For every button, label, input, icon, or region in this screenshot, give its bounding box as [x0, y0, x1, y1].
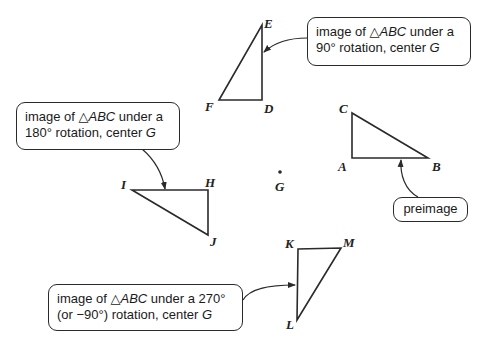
- triangle-abc-preimage: [352, 113, 428, 158]
- triangle-def-rotation-90: [219, 25, 262, 100]
- callout-line-2: 90° rotation, center G: [316, 40, 462, 56]
- text: 180° rotation, center: [25, 125, 146, 140]
- callout-preimage: preimage: [393, 197, 468, 222]
- vertex-label-a: A: [338, 160, 347, 173]
- triangle-name: ABC: [88, 109, 115, 124]
- center-point-g: [278, 170, 282, 174]
- vertex-label-m: M: [343, 236, 355, 249]
- triangle-klm-rotation-270: [297, 248, 341, 320]
- vertex-label-g: G: [275, 180, 284, 193]
- triangle-icon: △: [110, 291, 120, 306]
- text: (or −90°) rotation, center: [57, 307, 202, 322]
- vertex-label-b: B: [432, 160, 441, 173]
- callout-line-1: image of △ABC under a 270°: [57, 291, 234, 307]
- callout-rotation-90: image of △ABC under a 90° rotation, cent…: [307, 17, 471, 66]
- callout-rotation-180: image of △ABC under a 180° rotation, cen…: [16, 102, 180, 150]
- vertex-label-c: C: [339, 102, 348, 115]
- center-name: G: [202, 307, 212, 322]
- text: under a: [406, 24, 454, 39]
- triangle-hij-rotation-180: [132, 190, 208, 235]
- arrow-rot270: [243, 285, 295, 300]
- vertex-label-k: K: [285, 237, 294, 250]
- arrow-rot90: [264, 38, 307, 52]
- callout-rotation-270: image of △ABC under a 270° (or −90°) rot…: [48, 284, 243, 331]
- text: image of: [25, 109, 78, 124]
- preimage-label: preimage: [403, 201, 457, 216]
- callout-line-2: (or −90°) rotation, center G: [57, 307, 234, 323]
- center-name: G: [146, 125, 156, 140]
- text: under a 270°: [147, 291, 225, 306]
- vertex-label-i: I: [121, 178, 126, 191]
- vertex-label-h: H: [205, 176, 215, 189]
- triangle-name: ABC: [120, 291, 147, 306]
- callout-line-2: 180° rotation, center G: [25, 125, 171, 141]
- triangle-icon: △: [369, 24, 379, 39]
- triangle-name: ABC: [379, 24, 406, 39]
- arrow-preimage: [401, 160, 418, 197]
- triangle-icon: △: [78, 109, 88, 124]
- text: image of: [57, 291, 110, 306]
- vertex-label-e: E: [264, 17, 273, 30]
- callout-line-1: image of △ABC under a: [25, 109, 171, 125]
- vertex-label-l: L: [286, 318, 294, 331]
- text: under a: [115, 109, 163, 124]
- vertex-label-j: J: [210, 235, 217, 248]
- vertex-label-f: F: [205, 100, 214, 113]
- text: 90° rotation, center: [316, 40, 430, 55]
- center-name: G: [430, 40, 440, 55]
- arrow-rot180: [142, 149, 165, 189]
- vertex-label-d: D: [264, 102, 273, 115]
- callout-line-1: image of △ABC under a: [316, 24, 462, 40]
- text: image of: [316, 24, 369, 39]
